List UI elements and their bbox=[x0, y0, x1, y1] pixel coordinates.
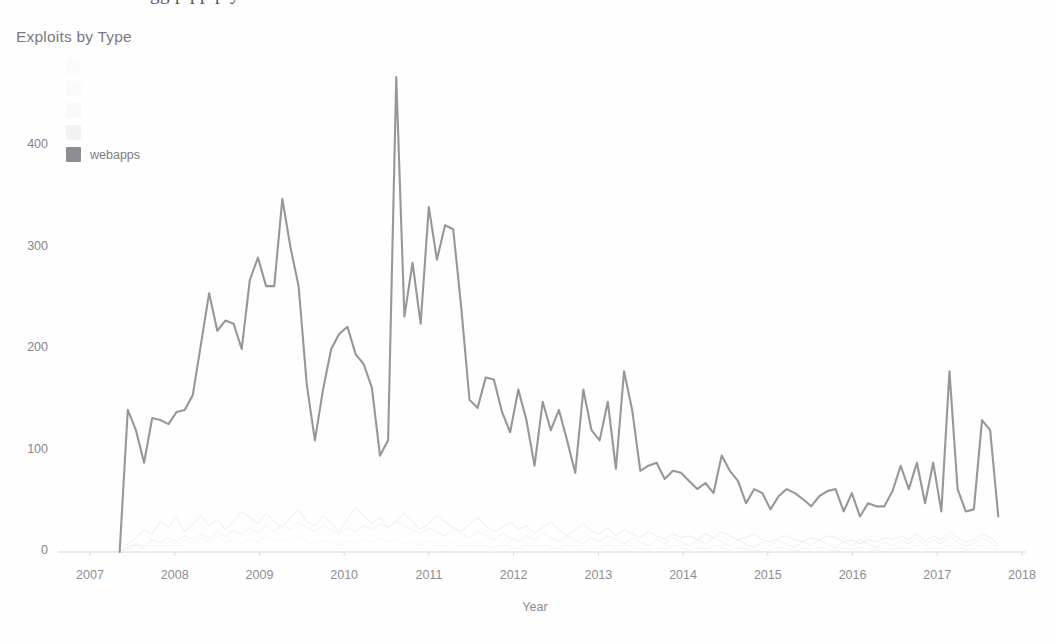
x-axis-label: Year bbox=[0, 600, 1054, 614]
y-tick-label: 0 bbox=[6, 543, 48, 557]
y-tick-label: 300 bbox=[6, 239, 48, 253]
legend-item[interactable] bbox=[66, 58, 140, 75]
exploits-by-type-line-chart bbox=[0, 0, 1054, 644]
x-tick-label: 2018 bbox=[992, 568, 1052, 582]
x-tick-label: 2013 bbox=[568, 568, 628, 582]
x-tick-label: 2008 bbox=[145, 568, 205, 582]
series-line-webapps bbox=[120, 77, 999, 552]
x-tick-label: 2012 bbox=[484, 568, 544, 582]
legend-swatch-icon bbox=[66, 59, 81, 74]
legend-swatch-icon bbox=[66, 81, 81, 96]
legend-swatch-icon bbox=[66, 125, 81, 140]
series-line-faint-series-a bbox=[120, 507, 999, 552]
legend-swatch-icon bbox=[66, 147, 81, 162]
chart-legend: webapps bbox=[66, 58, 140, 163]
x-tick-label: 2009 bbox=[229, 568, 289, 582]
x-tick-label: 2014 bbox=[653, 568, 713, 582]
y-tick-label: 100 bbox=[6, 442, 48, 456]
legend-swatch-icon bbox=[66, 103, 81, 118]
x-tick-label: 2011 bbox=[399, 568, 459, 582]
y-tick-label: 200 bbox=[6, 340, 48, 354]
legend-item[interactable] bbox=[66, 80, 140, 97]
x-tick-label: 2007 bbox=[60, 568, 120, 582]
x-tick-label: 2015 bbox=[738, 568, 798, 582]
y-tick-label: 400 bbox=[6, 137, 48, 151]
legend-item[interactable]: webapps bbox=[66, 146, 140, 163]
series-line-faint-series-c bbox=[120, 536, 999, 552]
series-line-faint-series-b bbox=[120, 522, 999, 552]
legend-item[interactable] bbox=[66, 124, 140, 141]
x-tick-label: 2010 bbox=[314, 568, 374, 582]
legend-item-label: webapps bbox=[90, 148, 140, 162]
legend-item[interactable] bbox=[66, 102, 140, 119]
x-tick-label: 2017 bbox=[907, 568, 967, 582]
x-tick-label: 2016 bbox=[823, 568, 883, 582]
